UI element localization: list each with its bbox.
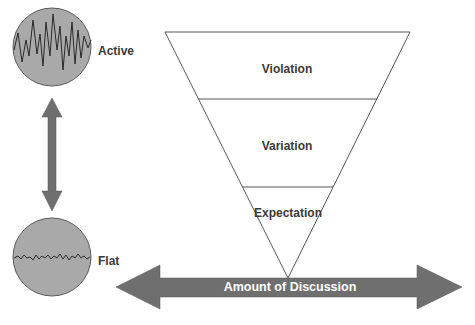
axis-label: Amount of Discussion <box>224 280 357 294</box>
funnel-level-violation: Violation <box>262 62 312 76</box>
active-label: Active <box>98 44 134 58</box>
funnel-level-expectation: Expectation <box>254 206 322 220</box>
diagram-canvas: Active Flat Violation Variation Expectat… <box>0 0 475 325</box>
active-circle-icon <box>13 8 91 86</box>
funnel-level-variation: Variation <box>262 139 313 153</box>
double-arrow-vertical-icon <box>42 98 62 211</box>
flat-label: Flat <box>98 254 119 268</box>
flat-circle-icon <box>13 218 91 296</box>
